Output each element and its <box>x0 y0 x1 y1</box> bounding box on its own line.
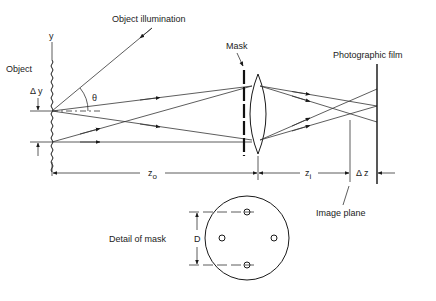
ray-arrow <box>292 92 310 95</box>
delta-z-label: Δ z <box>356 168 369 178</box>
mask-label: Mask <box>226 41 248 51</box>
object-label: Object <box>6 64 33 74</box>
ray-3a <box>260 86 377 106</box>
ray-3d <box>260 106 377 140</box>
image-plane-pointer <box>343 186 349 205</box>
d-label: D <box>194 234 201 244</box>
illumination-arrow <box>140 28 152 38</box>
ray-arrow <box>140 98 160 101</box>
illumination-ray <box>52 28 152 111</box>
ray-arrow <box>80 129 100 135</box>
optical-diagram: y Object Δ y Object illumination θ Mask … <box>0 0 436 301</box>
image-plane-label: Image plane <box>316 208 366 218</box>
object-illumination-label: Object illumination <box>112 14 186 24</box>
y-axis-label: y <box>49 31 54 41</box>
photographic-film-label: Photographic film <box>333 50 403 60</box>
zi-label: zi <box>305 168 312 181</box>
mask-hole-left <box>219 235 225 241</box>
ray-arrow <box>140 124 160 127</box>
ray-arrow <box>292 126 310 132</box>
delta-y-label: Δ y <box>30 86 43 96</box>
ray-arrow <box>292 96 310 102</box>
ray-arrow <box>292 118 310 126</box>
mask-hole-right <box>271 235 277 241</box>
ray-3c <box>260 89 377 140</box>
ray-3b <box>260 86 377 122</box>
zo-label: zo <box>148 168 158 181</box>
object-surface <box>51 60 53 172</box>
detail-of-mask-label: Detail of mask <box>109 234 167 244</box>
theta-label: θ <box>92 93 97 103</box>
lens <box>250 74 266 154</box>
mask-pointer <box>237 53 243 66</box>
